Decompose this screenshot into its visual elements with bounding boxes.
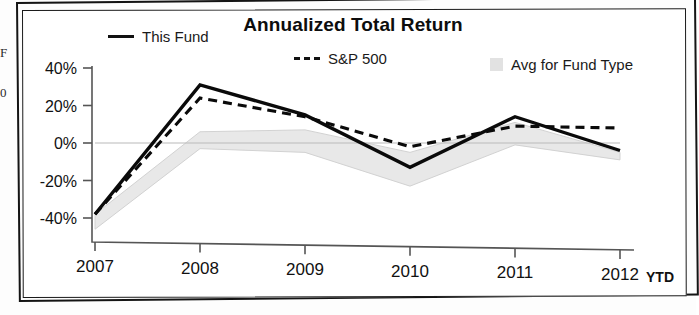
y-axis-tick-label: 0% — [54, 135, 77, 152]
y-axis-labels: 40%20%0%-20%-40% — [40, 60, 77, 227]
y-axis-tick-label: -20% — [40, 173, 77, 190]
y-axis-tick-label: 40% — [45, 60, 77, 77]
x-axis-tick-label: 2012 — [601, 265, 639, 284]
x-axis-ytd-label: YTD — [646, 269, 674, 285]
x-axis-tick-label: 2007 — [76, 257, 114, 276]
avg-fund-type-band — [95, 122, 620, 229]
plot-area: 40%20%0%-20%-40% 20072008200920102011201… — [22, 10, 684, 296]
y-axis-tick-label: -40% — [40, 210, 77, 227]
chart-container: Annualized Total Return This Fund S&P 50… — [22, 10, 684, 296]
scan-edge-fragment-1: F — [0, 46, 7, 59]
x-axis-tick-label: 2008 — [181, 259, 219, 278]
y-axis-tick-label: 20% — [45, 98, 77, 115]
x-axis-tick-label: 2010 — [391, 262, 429, 281]
x-axis-tick-label: 2011 — [497, 263, 534, 282]
x-axis-tick-label: 2009 — [286, 260, 324, 279]
scan-edge-fragment-2: 0 — [0, 86, 7, 99]
x-axis-labels: 200720082009201020112012YTD — [76, 257, 674, 285]
